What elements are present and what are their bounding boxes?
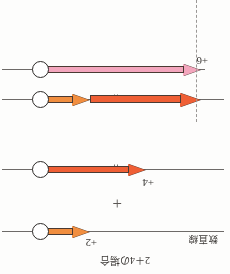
arrow-shaft [45,167,129,174]
arrow-head-icon [72,94,89,106]
arrow-shaft [90,95,181,103]
arrow-head-icon [180,93,200,107]
result-arrow [45,64,200,77]
label-result-value: +6 [197,55,208,67]
figure-caption: 2＋4の場合 [100,254,150,269]
arrow-head-icon [128,165,145,177]
alignment-guide [196,0,197,122]
four-arrow [45,164,145,177]
axis-label-number-line: 数直線 [188,233,218,247]
arrow-shaft [45,67,184,74]
plus-sign: + [112,195,122,212]
number-line-addition-figure: +6 = = +4 + [0,0,230,274]
label-addend-four-value: +4 [143,177,154,189]
four-arrow [90,92,200,107]
start-marker-addend-two [32,223,49,240]
label-addend-two-value: +2 [86,237,97,249]
start-marker-combined [32,91,49,108]
